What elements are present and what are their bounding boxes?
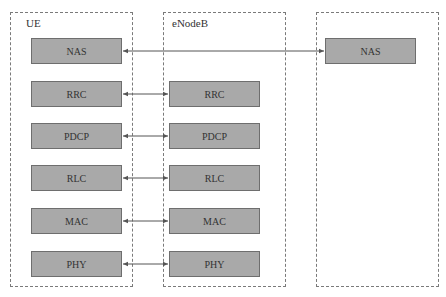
peer-arrows: [0, 0, 446, 297]
